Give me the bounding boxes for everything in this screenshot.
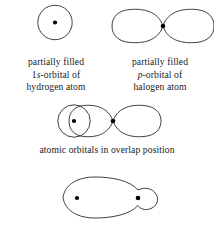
- halogen-nucleus-dot: [161, 24, 166, 29]
- caption-halogen-line2: p-orbital of: [108, 69, 212, 82]
- hydrogen-nucleus-dot: [53, 20, 57, 24]
- caption-halogen-line2-suffix: -orbital of: [143, 69, 183, 80]
- caption-halogen-line1: partially filled: [108, 56, 212, 69]
- overlap-hydrogen-nucleus-dot: [72, 119, 76, 123]
- overlap-s-orbital-circle: [58, 105, 90, 137]
- molecular-halogen-nucleus-dot: [136, 196, 141, 201]
- overlap-p-left-lobe: [69, 105, 113, 136]
- hydrogen-s-orbital-shape: [38, 5, 72, 39]
- molecular-orbital-shape: [63, 177, 158, 218]
- p-orbital-right-lobe: [163, 9, 214, 42]
- caption-hydrogen-line1: partially filled: [4, 56, 108, 69]
- s-orbital-circle: [38, 5, 72, 39]
- caption-hydrogen-line2: 1s-orbital of: [4, 69, 108, 82]
- caption-overlap-position: atomic orbitals in overlap position: [0, 144, 214, 157]
- caption-hydrogen-line2-suffix: -orbital of: [41, 69, 81, 80]
- p-orbital-left-lobe: [112, 9, 163, 42]
- orbital-overlap-figure: partially filled 1s-orbital of hydrogen …: [0, 0, 214, 225]
- halogen-p-orbital-shape: [112, 9, 214, 42]
- overlap-p-right-lobe: [113, 105, 161, 136]
- caption-hydrogen-line3: hydrogen atom: [4, 81, 108, 94]
- molecular-hydrogen-nucleus-dot: [75, 196, 79, 200]
- caption-overlap-line1: atomic orbitals in overlap position: [0, 144, 214, 157]
- overlap-halogen-nucleus-dot: [111, 119, 116, 124]
- molecular-major-lobe: [63, 177, 138, 218]
- orbital-diagram-svg: [0, 0, 214, 225]
- overlap-orbitals-shape: [58, 105, 161, 137]
- caption-halogen-orbital: partially filled p-orbital of halogen at…: [108, 56, 212, 94]
- caption-hydrogen-orbital: partially filled 1s-orbital of hydrogen …: [4, 56, 108, 94]
- caption-halogen-line3: halogen atom: [108, 81, 212, 94]
- molecular-minor-lobe: [138, 188, 158, 209]
